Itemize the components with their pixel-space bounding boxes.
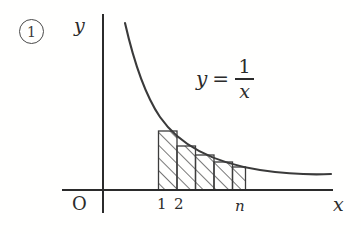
x-tick-label-n: n bbox=[235, 199, 245, 214]
rectangle-3 bbox=[196, 155, 215, 190]
riemann-rectangles bbox=[159, 131, 246, 190]
equation-annotation: y = 1 x bbox=[196, 57, 254, 101]
y-axis-label: y bbox=[74, 16, 85, 35]
origin-label: O bbox=[72, 195, 87, 213]
equation-left-side: y bbox=[196, 67, 207, 91]
fraction: 1 x bbox=[235, 57, 254, 101]
fraction-denominator: x bbox=[239, 80, 250, 101]
equation-equals-sign: = bbox=[212, 67, 229, 91]
x-tick-label-2: 2 bbox=[174, 197, 184, 212]
figure-number-marker: 1 bbox=[19, 19, 44, 44]
x-axis-label: x bbox=[333, 195, 344, 214]
figure-container: 1 y x O 1 2 n y = 1 x bbox=[0, 0, 361, 234]
rectangle-1 bbox=[159, 131, 178, 190]
rectangle-5 bbox=[233, 167, 246, 190]
rectangle-4 bbox=[214, 162, 233, 190]
fraction-numerator: 1 bbox=[239, 57, 251, 78]
x-tick-label-1: 1 bbox=[157, 197, 167, 212]
rectangle-2 bbox=[177, 146, 196, 190]
